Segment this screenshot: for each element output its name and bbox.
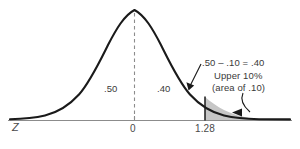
upper-percent-annotation: Upper 10% [214, 70, 262, 81]
axis-label-z: Z [12, 122, 19, 133]
tick-label-zero: 0 [130, 123, 136, 134]
equation-leader-line [190, 64, 201, 86]
tick-label-critical-value: 1.28 [195, 123, 215, 134]
equation-leader-arrowhead [186, 82, 194, 90]
probability-label-left: .50 [104, 83, 118, 94]
probability-label-middle: .40 [157, 83, 171, 94]
area-leader-line [242, 93, 250, 112]
normal-distribution-figure: .50 .40 .50 – .10 = .40 Upper 10% (area … [0, 0, 300, 149]
area-of-annotation: (area of .10) [212, 82, 265, 93]
equation-annotation: .50 – .10 = .40 [202, 57, 265, 68]
